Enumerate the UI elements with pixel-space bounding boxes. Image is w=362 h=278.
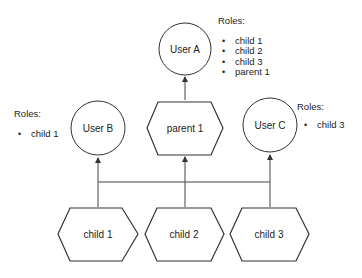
label-child-3: child 3 <box>255 229 284 240</box>
label-user-a: User A <box>170 44 200 55</box>
roles-title: Roles: <box>14 109 58 120</box>
diagram-canvas: User A User B User C parent 1 child 1 ch… <box>0 0 362 278</box>
roles-user-a: Roles: child 1 child 2 child 3 parent 1 <box>218 16 270 78</box>
role-item: parent 1 <box>235 67 270 78</box>
roles-user-b: Roles: child 1 <box>14 109 58 139</box>
roles-list: child 1 <box>14 129 58 140</box>
roles-list: child 1 child 2 child 3 parent 1 <box>218 36 270 78</box>
roles-user-c: Roles: child 3 <box>297 102 344 130</box>
roles-title: Roles: <box>297 102 344 113</box>
roles-list: child 3 <box>297 120 344 131</box>
label-child-2: child 2 <box>170 229 199 240</box>
role-item: child 1 <box>31 129 58 140</box>
label-parent-1: parent 1 <box>167 123 204 134</box>
roles-title: Roles: <box>218 16 270 27</box>
role-item: child 2 <box>235 46 270 57</box>
label-child-1: child 1 <box>84 229 113 240</box>
label-user-c: User C <box>254 120 285 131</box>
label-user-b: User B <box>83 123 114 134</box>
role-item: child 3 <box>317 120 344 131</box>
